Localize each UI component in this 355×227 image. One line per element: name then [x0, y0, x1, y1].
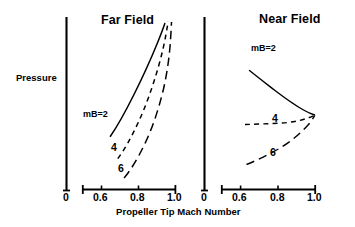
near-field-tick-label-0.8: 0.8 — [270, 192, 285, 203]
figure-pressure-vs-mach: Pressure Far Field Near Field 0 0.6 0.8 … — [0, 0, 355, 227]
far-field-curve-label-mb2: mB=2 — [83, 110, 108, 119]
far-field-origin-label: 0 — [63, 192, 69, 203]
far-field-tick-label-0.8: 0.8 — [130, 192, 145, 203]
near-field-curve-4 — [245, 115, 315, 124]
near-field-curve-label-4: 4 — [272, 113, 278, 124]
far-field-tick-label-0.6: 0.6 — [93, 192, 108, 203]
near-field-curve-label-mb2: mB=2 — [251, 44, 276, 53]
near-field-origin-label: 0 — [201, 192, 207, 203]
far-field-tick-label-1.0: 1.0 — [167, 192, 182, 203]
far-field-curve-4 — [118, 22, 168, 159]
near-field-curve-6 — [247, 116, 315, 165]
panel-title-near-field: Near Field — [259, 13, 320, 26]
x-axis-title: Propeller Tip Mach Number — [116, 207, 241, 217]
near-field-curve-label-6: 6 — [270, 147, 276, 158]
far-field-curve-label-4: 4 — [111, 142, 117, 153]
panel-title-far-field: Far Field — [101, 14, 154, 27]
near-field-tick-label-1.0: 1.0 — [307, 192, 322, 203]
near-field-curve-mb2 — [250, 71, 315, 116]
far-field-curve-label-6: 6 — [118, 163, 124, 174]
far-field-curve-mb2 — [110, 24, 164, 137]
y-axis-label: Pressure — [16, 73, 57, 83]
near-field-tick-label-0.6: 0.6 — [232, 192, 247, 203]
